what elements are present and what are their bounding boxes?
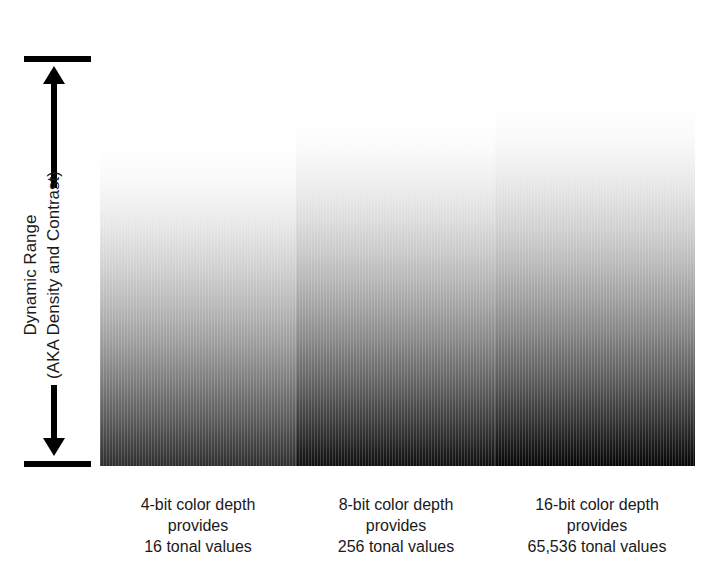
caption-8bit-line-2: provides: [296, 515, 496, 536]
captions-group: 4-bit color depth provides 16 tonal valu…: [0, 494, 718, 574]
gradient-bar-16bit: [495, 105, 695, 466]
dynamic-range-color-depth-figure: Dynamic Range (AKA Density and Contrast)…: [0, 0, 718, 574]
caption-8bit-line-1: 8-bit color depth: [296, 494, 496, 515]
gradient-bar-8bit-fill: [296, 120, 495, 466]
gradient-bar-4bit: [100, 145, 296, 466]
gradient-bars-group: [0, 0, 718, 574]
caption-4bit-line-3: 16 tonal values: [98, 536, 298, 557]
caption-4bit: 4-bit color depth provides 16 tonal valu…: [98, 494, 298, 557]
caption-16bit-line-3: 65,536 tonal values: [494, 536, 700, 557]
caption-16bit-line-1: 16-bit color depth: [494, 494, 700, 515]
caption-16bit-line-2: provides: [494, 515, 700, 536]
caption-4bit-line-1: 4-bit color depth: [98, 494, 298, 515]
caption-8bit: 8-bit color depth provides 256 tonal val…: [296, 494, 496, 557]
gradient-bar-8bit: [296, 120, 495, 466]
caption-8bit-line-3: 256 tonal values: [296, 536, 496, 557]
caption-16bit: 16-bit color depth provides 65,536 tonal…: [494, 494, 700, 557]
gradient-bar-4bit-fill: [100, 145, 296, 466]
caption-4bit-line-2: provides: [98, 515, 298, 536]
gradient-bar-16bit-fill: [495, 105, 695, 466]
